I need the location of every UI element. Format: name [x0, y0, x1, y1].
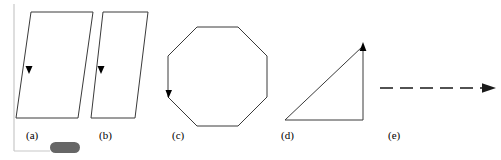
selection-pill[interactable]: [50, 142, 80, 153]
parallelogram-b-outline: [91, 12, 148, 118]
panel-label-d: (d): [281, 130, 294, 141]
shape-e-dashed-arrow: [380, 83, 496, 93]
shape-a-parallelogram: [16, 12, 93, 118]
figure-canvas: (a) (b) (c) (d) (e): [0, 0, 501, 160]
panel-label-a: (a): [26, 130, 38, 141]
triangle-d-outline: [285, 46, 363, 120]
figure-vector-graphics: [0, 0, 501, 160]
parallelogram-a-outline: [16, 12, 93, 118]
octagon-c-outline: [168, 27, 267, 126]
shape-b-parallelogram: [91, 12, 148, 118]
arrowhead-right-icon: [482, 83, 496, 93]
shape-c-octagon: [166, 27, 268, 126]
shape-d-right-triangle: [285, 42, 366, 120]
panel-label-c: (c): [172, 130, 184, 141]
panel-label-e: (e): [388, 130, 400, 141]
arrowhead-down-icon: [26, 66, 33, 74]
arrowhead-down-icon: [98, 66, 105, 74]
arrowhead-up-icon: [360, 42, 367, 51]
panel-label-b: (b): [99, 130, 112, 141]
arrowhead-down-icon: [166, 90, 173, 98]
